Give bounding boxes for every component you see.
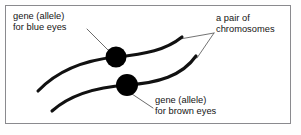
label-chromosome-pair-line1: a pair of [216,13,275,24]
label-chromosome-pair: a pair of chromosomes [216,13,275,34]
label-brown-eye-gene: gene (allele) for brown eyes [155,95,216,116]
blue-eye-allele-dot [106,47,127,68]
leader-chromosome-lower [197,33,214,58]
label-blue-eye-gene: gene (allele) for blue eyes [13,11,67,32]
diagram-figure: gene (allele) for blue eyes a pair of ch… [0,0,301,135]
leader-chromosome-upper [180,33,214,39]
label-blue-eye-gene-line2: for blue eyes [13,22,67,33]
brown-eye-allele-dot [116,74,138,96]
label-brown-eye-gene-line2: for brown eyes [155,106,216,117]
leader-blue-eyes [87,29,110,52]
label-blue-eye-gene-line1: gene (allele) [13,11,67,22]
label-brown-eye-gene-line1: gene (allele) [155,95,216,106]
leader-brown-eyes [132,94,153,108]
label-chromosome-pair-line2: chromosomes [216,24,275,35]
